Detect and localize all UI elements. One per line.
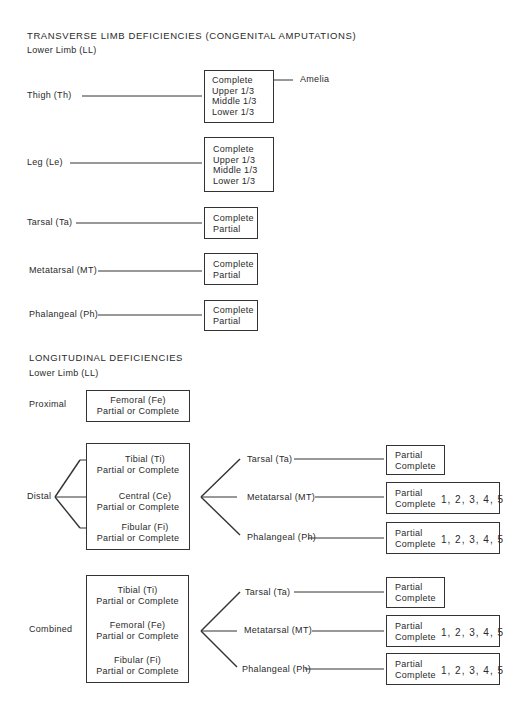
- leg-options-box: Complete Upper 1/3 Middle 1/3 Lower 1/3: [204, 137, 274, 192]
- option: Lower 1/3: [212, 107, 273, 118]
- metatarsal-options-box: Complete Partial: [204, 253, 258, 285]
- option: Complete: [213, 305, 257, 316]
- thigh-options-box: Complete Upper 1/3 Middle 1/3 Lower 1/3: [204, 70, 274, 123]
- combined-phalangeal-box: Partial Complete 1, 2, 3, 4, 5: [386, 653, 500, 685]
- item-detail: Partial or Complete: [87, 406, 189, 417]
- proximal-label: Proximal: [29, 399, 66, 410]
- ray-numbers: 1, 2, 3, 4, 5: [441, 627, 504, 638]
- combined-label: Combined: [29, 624, 72, 635]
- phalangeal-options-box: Complete Partial: [204, 300, 258, 331]
- combined-item: Fibular (Fi) Partial or Complete: [87, 655, 188, 676]
- combined-metatarsal-box: Partial Complete 1, 2, 3, 4, 5: [386, 615, 500, 647]
- distal-tarsal-box: Partial Complete: [386, 445, 445, 475]
- combined-box: Tibial (Ti) Partial or Complete Femoral …: [86, 575, 189, 683]
- transverse-title: TRANSVERSE LIMB DEFICIENCIES (CONGENITAL…: [27, 30, 356, 41]
- combined-tarsal-box: Partial Complete: [386, 577, 445, 608]
- tarsal-label: Tarsal (Ta): [27, 217, 72, 228]
- option: Partial: [213, 316, 257, 327]
- transverse-subtitle: Lower Limb (LL): [27, 45, 97, 55]
- distal-branch-metatarsal: Metatarsal (MT): [247, 492, 315, 503]
- phalangeal-label: Phalangeal (Ph): [29, 309, 98, 320]
- longitudinal-title: LONGITUDINAL DEFICIENCIES: [29, 352, 183, 363]
- option: Middle 1/3: [212, 96, 273, 107]
- option: Lower 1/3: [213, 176, 273, 187]
- ray-numbers: 1, 2, 3, 4, 5: [441, 534, 504, 545]
- metatarsal-label: Metatarsal (MT): [29, 265, 97, 276]
- option: Complete: [212, 75, 273, 86]
- option: Complete: [213, 144, 273, 155]
- option: Complete: [213, 213, 257, 224]
- combined-branch-tarsal: Tarsal (Ta): [245, 587, 290, 598]
- item-name: Femoral (Fe): [87, 395, 189, 406]
- ray-numbers: 1, 2, 3, 4, 5: [441, 665, 504, 676]
- distal-phalangeal-box: Partial Complete 1, 2, 3, 4, 5: [386, 522, 500, 554]
- combined-item: Femoral (Fe) Partial or Complete: [87, 620, 188, 641]
- ray-numbers: 1, 2, 3, 4, 5: [441, 494, 504, 505]
- distal-label: Distal: [27, 491, 51, 502]
- option: Middle 1/3: [213, 165, 273, 176]
- amelia-annotation: Amelia: [300, 74, 329, 85]
- longitudinal-subtitle: Lower Limb (LL): [29, 368, 99, 378]
- combined-branch-phalangeal: Phalangeal (Ph): [242, 664, 311, 675]
- combined-branch-metatarsal: Metatarsal (MT): [244, 625, 312, 636]
- option: Partial: [213, 224, 257, 235]
- distal-item: Fibular (Fi) Partial or Complete: [87, 522, 189, 543]
- distal-branch-phalangeal: Phalangeal (Ph): [247, 532, 316, 543]
- tarsal-options-box: Complete Partial: [204, 207, 258, 239]
- thigh-label: Thigh (Th): [27, 90, 72, 101]
- option: Upper 1/3: [212, 86, 273, 97]
- distal-box: Tibial (Ti) Partial or Complete Central …: [86, 443, 190, 550]
- leg-label: Leg (Le): [27, 157, 63, 168]
- distal-item: Central (Ce) Partial or Complete: [87, 491, 189, 512]
- distal-item: Tibial (Ti) Partial or Complete: [87, 454, 189, 475]
- combined-item: Tibial (Ti) Partial or Complete: [87, 585, 188, 606]
- option: Upper 1/3: [213, 155, 273, 166]
- distal-metatarsal-box: Partial Complete 1, 2, 3, 4, 5: [386, 482, 500, 514]
- option: Complete: [213, 259, 257, 270]
- option: Partial: [213, 270, 257, 281]
- distal-branch-tarsal: Tarsal (Ta): [247, 454, 292, 465]
- proximal-box: Femoral (Fe) Partial or Complete: [86, 390, 190, 422]
